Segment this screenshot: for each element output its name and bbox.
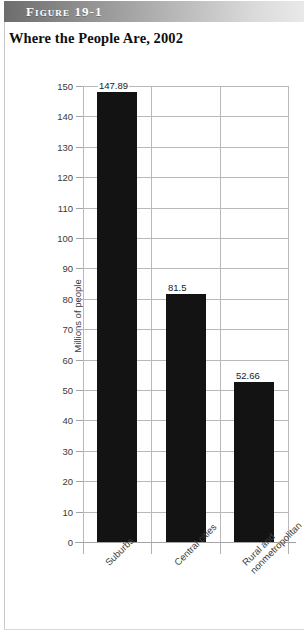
gridline-vertical	[83, 86, 84, 542]
bar	[166, 294, 206, 542]
y-axis-tick	[76, 268, 83, 269]
y-axis-tick-label: 120	[43, 177, 73, 178]
bar	[234, 382, 274, 542]
bar	[97, 92, 137, 542]
y-axis-tick	[76, 451, 83, 452]
y-axis-tick	[76, 86, 83, 87]
y-axis-tick-label: 70	[43, 329, 73, 330]
y-axis-tick-label: 100	[43, 238, 73, 239]
y-axis-tick-label: 30	[43, 451, 73, 452]
figure-bottom-rule	[4, 629, 304, 630]
y-axis-tick-label: 40	[43, 420, 73, 421]
y-axis-tick	[76, 390, 83, 391]
y-axis-tick	[76, 238, 83, 239]
bar-value-label: 52.66	[235, 370, 261, 381]
x-axis-tick	[83, 542, 84, 554]
x-axis-tick	[151, 542, 152, 554]
y-axis-title: Millions of people	[72, 279, 83, 352]
y-axis-tick-label: 140	[43, 116, 73, 117]
y-axis-tick	[76, 360, 83, 361]
y-axis-tick-label: 130	[43, 147, 73, 148]
gridline-vertical	[288, 86, 289, 542]
y-axis-tick-label: 20	[43, 481, 73, 482]
y-axis-tick-label: 90	[43, 268, 73, 269]
figure-title: Where the People Are, 2002	[9, 30, 183, 47]
figure-left-rule	[4, 22, 5, 630]
x-axis-tick	[220, 542, 221, 554]
y-axis-tick-label: 0	[43, 542, 73, 543]
y-axis-tick	[76, 420, 83, 421]
y-axis-tick-label: 50	[43, 390, 73, 391]
y-axis-tick-label: 60	[43, 360, 73, 361]
y-axis-tick	[76, 481, 83, 482]
y-axis-tick	[76, 116, 83, 117]
figure-number-label: Figure 19-1	[26, 4, 103, 20]
gridline-vertical	[220, 86, 221, 542]
y-axis-tick	[76, 329, 83, 330]
figure-header-bar: Figure 19-1	[4, 1, 304, 22]
x-axis-tick	[288, 542, 289, 554]
y-axis-tick-label: 150	[43, 86, 73, 87]
gridline-vertical	[151, 86, 152, 542]
figure-container: Figure 19-1 Where the People Are, 2002 M…	[0, 0, 308, 640]
y-axis-tick	[76, 299, 83, 300]
y-axis-tick	[76, 177, 83, 178]
chart-plot-area: Millions of people 010203040506070809010…	[83, 86, 288, 542]
y-axis-tick	[76, 208, 83, 209]
y-axis-tick	[76, 147, 83, 148]
bar-value-label: 81.5	[167, 282, 188, 293]
y-axis-tick-label: 10	[43, 512, 73, 513]
y-axis-tick-label: 110	[43, 208, 73, 209]
bar-value-label: 147.89	[98, 80, 129, 91]
y-axis-tick	[76, 512, 83, 513]
y-axis-tick-label: 80	[43, 299, 73, 300]
